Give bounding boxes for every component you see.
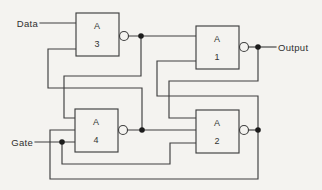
output-label: Output	[278, 42, 308, 53]
gate-a3-letter: A	[94, 21, 100, 31]
latch-circuit-diagram: A 3 A 1 A 4 A 2 Data Gate Output	[0, 0, 322, 190]
junction-a3-output	[138, 33, 144, 39]
junction-a2-output	[255, 127, 261, 133]
gate-a4-letter: A	[93, 117, 99, 127]
gate-a3-box	[76, 13, 119, 56]
gate-a1-box	[196, 26, 239, 69]
circuit-figure: A 3 A 1 A 4 A 2 Data Gate Output	[0, 0, 322, 190]
gate-a4-box	[75, 109, 118, 152]
gate-a1-bubble-icon	[240, 43, 249, 52]
gate-a1-number: 1	[214, 52, 219, 62]
gate-a4-bubble-icon	[119, 126, 128, 135]
gate-label: Gate	[11, 137, 33, 148]
gate-a1-letter: A	[214, 34, 220, 44]
gate-a4-number: 4	[93, 135, 98, 145]
data-label: Data	[17, 18, 39, 29]
gate-a2-box	[196, 110, 239, 153]
junction-a4-output	[139, 127, 145, 133]
gate-a3-number: 3	[94, 39, 99, 49]
signal-labels: Data Gate Output	[11, 18, 308, 149]
gate-a2-number: 2	[214, 136, 219, 146]
gate-a2-letter: A	[214, 118, 220, 128]
junction-gate-input	[59, 139, 65, 145]
junction-a1-output	[255, 44, 261, 50]
gate-a3-bubble-icon	[120, 32, 129, 41]
gate-a2-bubble-icon	[240, 126, 249, 135]
